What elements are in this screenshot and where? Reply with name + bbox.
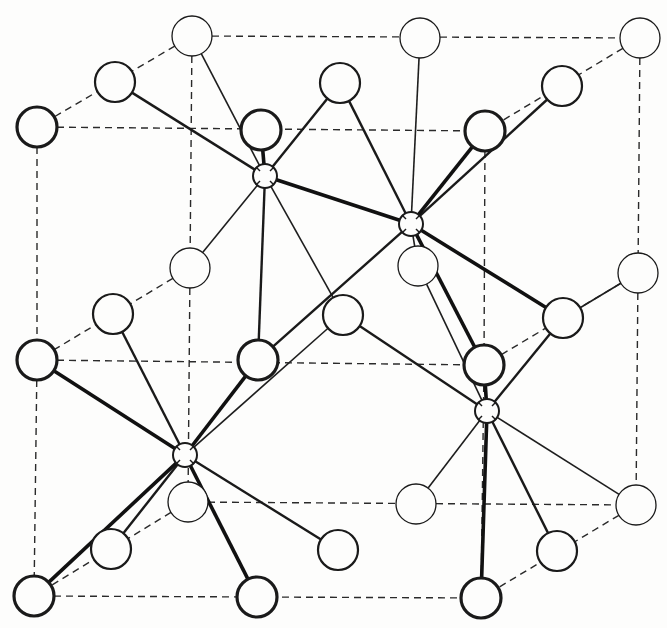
cell-edge <box>484 151 485 345</box>
bond-line <box>195 461 321 539</box>
cell-edge <box>34 380 36 576</box>
anion-atom <box>396 484 436 524</box>
anion-atom <box>241 110 281 150</box>
anion-atom <box>91 529 131 569</box>
anion-atom <box>14 576 54 616</box>
diagram-canvas <box>0 0 667 628</box>
cation-atom <box>253 164 277 188</box>
cell-edge <box>638 58 640 253</box>
anion-atom <box>172 16 212 56</box>
bond-line <box>259 188 265 340</box>
anion-atom <box>616 485 656 525</box>
bond-line <box>190 466 248 579</box>
bond-line <box>122 332 179 445</box>
anion-atom <box>95 62 135 102</box>
anion-atom <box>464 345 504 385</box>
bond-line <box>271 186 333 297</box>
bond-line <box>418 147 472 215</box>
bond-line <box>54 371 175 449</box>
bond-line <box>413 236 415 246</box>
anion-atom <box>170 248 210 288</box>
bond-line <box>263 150 264 164</box>
cell-edge <box>636 293 638 485</box>
bond-line <box>276 180 399 221</box>
anion-atom <box>542 66 582 106</box>
anion-atom <box>320 63 360 103</box>
bond-line <box>580 283 621 307</box>
bond-line <box>497 417 619 494</box>
anion-atom <box>543 298 583 338</box>
bond-line <box>492 422 548 533</box>
anion-atom <box>537 531 577 571</box>
cation-atom <box>173 443 197 467</box>
anion-atom <box>93 294 133 334</box>
anion-atom <box>461 578 501 618</box>
anion-atom <box>323 295 363 335</box>
cation-atom <box>475 399 499 423</box>
bond-line <box>412 58 419 212</box>
crystal-structure-diagram: Crystal structure unit cell (cations oct… <box>0 0 667 628</box>
anion-atom <box>237 577 277 617</box>
anion-atom <box>618 253 658 293</box>
anion-atom <box>620 18 660 58</box>
bond-line <box>349 101 406 213</box>
anion-atom <box>400 18 440 58</box>
anion-atom <box>17 107 57 147</box>
bond-line <box>192 376 246 446</box>
anion-atom <box>168 482 208 522</box>
bond-line <box>485 385 486 399</box>
anion-atoms <box>14 16 660 618</box>
anion-atom <box>238 340 278 380</box>
anion-atom <box>318 530 358 570</box>
anion-atom <box>17 340 57 380</box>
cation-atom <box>399 212 423 236</box>
cell-edge <box>190 56 192 248</box>
anion-atom <box>465 111 505 151</box>
bond-line <box>132 93 255 170</box>
bond-line <box>203 185 258 252</box>
bond-line <box>428 421 480 489</box>
anion-atom <box>398 246 438 286</box>
